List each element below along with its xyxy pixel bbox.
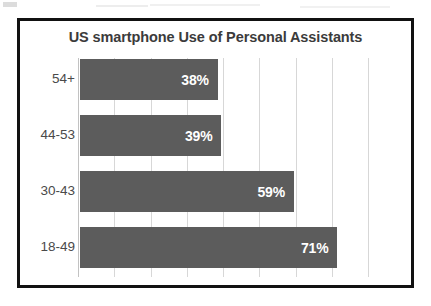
category-axis-labels: 54+44-5330-4318-49 [20, 58, 75, 277]
bar[interactable]: 38% [80, 59, 218, 100]
bar[interactable]: 59% [80, 171, 294, 212]
bar-value-label: 71% [301, 240, 328, 256]
bar-row: 71% [80, 227, 413, 268]
scan-artifact-mark [96, 5, 148, 7]
bar-row: 59% [80, 171, 413, 212]
category-label: 54+ [15, 71, 75, 86]
scan-artifact-mark [3, 2, 17, 7]
scan-artifact-mark [300, 6, 390, 8]
chart-inner: US smartphone Use of Personal Assistants… [20, 21, 411, 285]
chart-frame: US smartphone Use of Personal Assistants… [17, 18, 414, 288]
category-label: 18-49 [15, 239, 75, 254]
category-label: 30-43 [15, 183, 75, 198]
category-label: 44-53 [15, 127, 75, 142]
bar-row: 38% [80, 59, 413, 100]
bar-row: 39% [80, 115, 413, 156]
plot-area: 38%39%59%71% [78, 58, 411, 277]
gridline [78, 58, 79, 277]
bar[interactable]: 71% [80, 227, 337, 268]
bar-value-label: 59% [257, 184, 284, 200]
bar[interactable]: 39% [80, 115, 221, 156]
scan-artifacts [0, 0, 431, 18]
bar-value-label: 38% [181, 72, 208, 88]
chart-title: US smartphone Use of Personal Assistants [20, 29, 411, 45]
bar-value-label: 39% [185, 128, 212, 144]
scan-artifact-mark [150, 4, 260, 6]
